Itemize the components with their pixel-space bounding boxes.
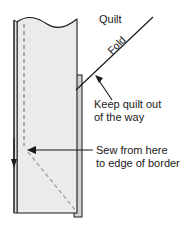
quilt-label: Quilt xyxy=(99,13,122,25)
keep-quilt-leader-shaft xyxy=(98,79,112,100)
quilt-mitering-diagram: Quilt Fold Keep quilt out of the way Sew… xyxy=(0,0,190,228)
keep-quilt-leader-arrowhead xyxy=(95,75,103,83)
keep-quilt-label-line2: of the way xyxy=(94,111,145,123)
sew-label-line2: to edge of border xyxy=(96,157,180,169)
keep-quilt-label-line1: Keep quilt out xyxy=(94,98,161,110)
quilt-border-panel xyxy=(17,18,77,213)
keep-quilt-leader xyxy=(95,75,112,100)
diagram-canvas: Quilt Fold Keep quilt out of the way Sew… xyxy=(0,0,190,228)
torn-fabric-edge xyxy=(17,18,77,213)
folded-edge-strip xyxy=(14,20,17,213)
fold-label: Fold xyxy=(105,33,128,56)
sew-label-line1: Sew from here xyxy=(96,144,168,156)
